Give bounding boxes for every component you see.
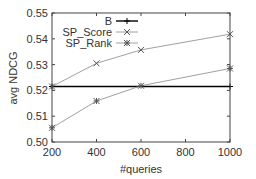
line-chart: 0.500.510.520.530.540.55 200400600800100… bbox=[0, 0, 256, 179]
y-axis-ticks: 0.500.510.520.530.540.55 bbox=[27, 7, 230, 148]
legend-label: SP_Rank bbox=[66, 37, 113, 49]
series-sp-rank bbox=[49, 65, 233, 130]
y-tick-label: 0.54 bbox=[27, 33, 48, 45]
y-axis-label: avg NDCG bbox=[7, 51, 19, 104]
legend: BSP_ScoreSP_Rank bbox=[62, 15, 138, 49]
x-tick-label: 600 bbox=[132, 146, 150, 158]
y-tick-label: 0.55 bbox=[27, 7, 48, 19]
y-tick-label: 0.51 bbox=[27, 110, 48, 122]
y-tick-label: 0.52 bbox=[27, 84, 48, 96]
x-tick-label: 400 bbox=[87, 146, 105, 158]
x-tick-label: 1000 bbox=[218, 146, 242, 158]
x-axis-label: #queries bbox=[120, 163, 163, 175]
x-tick-label: 800 bbox=[176, 146, 194, 158]
y-tick-label: 0.53 bbox=[27, 59, 48, 71]
x-tick-label: 200 bbox=[43, 146, 61, 158]
